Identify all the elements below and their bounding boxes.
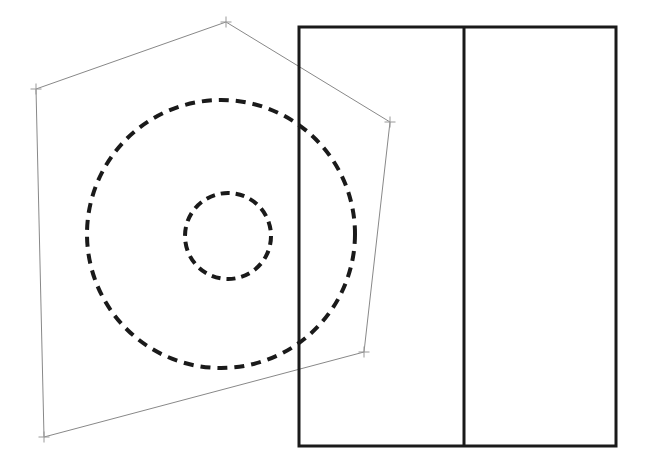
vertex-marker-right-lower-vertex — [359, 347, 370, 358]
vertex-marker-top-left-vertex — [31, 84, 42, 95]
vertex-marker-right-upper-vertex — [385, 117, 396, 128]
inner-dashed-circle — [185, 193, 271, 279]
outer-dashed-circle — [87, 100, 355, 368]
technical-drawing-svg — [0, 0, 649, 468]
vertex-marker-apex-vertex — [221, 17, 232, 28]
vertex-marker-bottom-left-vertex — [39, 432, 50, 443]
pentagon-outline — [36, 22, 390, 437]
drawing-canvas — [0, 0, 649, 468]
main-rectangle — [299, 27, 616, 446]
